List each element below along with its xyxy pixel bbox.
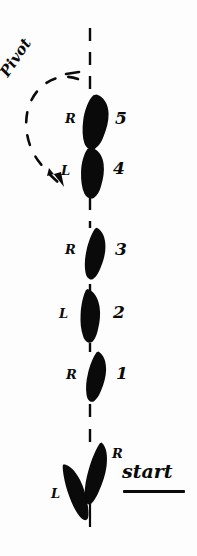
step-number-2: 2 — [113, 304, 125, 321]
foot-label-start-right: R — [112, 447, 123, 460]
step-number-3: 3 — [115, 241, 127, 258]
step-number-5: 5 — [115, 110, 127, 127]
foot-label-start-left: L — [51, 487, 60, 500]
foot-label-step-1: R — [66, 368, 77, 381]
step-number-4: 4 — [113, 160, 125, 177]
footprint-step-3 — [84, 227, 107, 280]
footprint-diagram: Pivot R 5 L 4 R 3 L 2 R 1 R L start — [0, 0, 197, 556]
footprint-step-1 — [85, 351, 108, 403]
foot-label-step-5: R — [65, 112, 76, 125]
footprint-step-2 — [78, 288, 103, 343]
pivot-arc — [26, 72, 79, 183]
footprint-step-4 — [80, 147, 106, 199]
footprint-step-5 — [81, 94, 109, 150]
start-label: start — [122, 462, 173, 481]
foot-label-step-2: L — [59, 307, 68, 320]
footprint-start-right — [82, 441, 111, 506]
foot-label-step-4: L — [61, 164, 70, 177]
foot-label-step-3: R — [65, 243, 76, 256]
start-underline — [123, 490, 185, 493]
step-number-1: 1 — [116, 365, 128, 382]
